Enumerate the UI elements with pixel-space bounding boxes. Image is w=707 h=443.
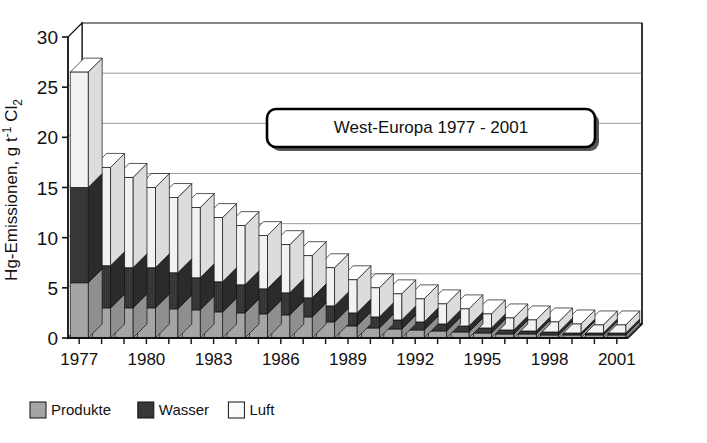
bar-segment-side — [111, 153, 125, 265]
legend-swatch-luft[interactable] — [228, 402, 244, 418]
x-tick-label: 1977 — [60, 350, 98, 369]
y-tick-label: 10 — [37, 228, 58, 249]
y-axis-title-subscript: 2 — [11, 99, 25, 106]
title-callout: West-Europa 1977 - 2001 — [267, 109, 599, 151]
x-tick-label: 1998 — [531, 350, 569, 369]
bar-segment-front — [70, 283, 88, 338]
y-axis-title-mid: Cl — [2, 106, 21, 127]
legend-label-luft: Luft — [249, 401, 275, 418]
x-tick-label: 1980 — [127, 350, 165, 369]
x-tick-label: 1986 — [262, 350, 300, 369]
bar-segment-front — [451, 332, 469, 338]
bar-segment-front — [541, 332, 559, 335]
legend-swatch-wasser[interactable] — [138, 402, 154, 418]
y-tick-label: 15 — [37, 178, 58, 199]
x-tick-label: 2001 — [598, 350, 636, 369]
bar-segment-side — [133, 163, 147, 267]
y-tick-label: 0 — [47, 328, 58, 349]
legend-label-wasser: Wasser — [159, 401, 209, 418]
bar-segment-side — [178, 184, 192, 273]
legend-label-produkte: Produkte — [51, 401, 111, 418]
bar-segment-front — [70, 188, 88, 283]
x-tick-label: 1992 — [396, 350, 434, 369]
chart-container: Hg-Emissionen, g t-1 Cl2 051015202530 19… — [0, 0, 707, 443]
x-tick-label: 1983 — [195, 350, 233, 369]
bar-segment-front — [518, 331, 536, 334]
bar-group — [70, 58, 102, 338]
y-tick-label: 25 — [37, 77, 58, 98]
bar-segment-side — [88, 174, 102, 283]
legend-swatch-produkte[interactable] — [30, 402, 46, 418]
y-axis-title-prefix: Hg-Emissionen, g t — [2, 137, 21, 281]
bar-segment-side — [155, 174, 169, 268]
title-label: West-Europa 1977 - 2001 — [334, 118, 528, 137]
bar-segment-front — [429, 331, 447, 338]
y-tick-label: 5 — [47, 278, 58, 299]
bar-segment-side — [200, 194, 214, 278]
bar-segment-front — [70, 72, 88, 187]
x-tick-label: 1989 — [329, 350, 367, 369]
y-tick-label: 30 — [37, 27, 58, 48]
plot-area-3d — [68, 23, 642, 338]
x-tick-label: 1995 — [463, 350, 501, 369]
bar-segment-side — [88, 58, 102, 187]
x-axis-ticks: 197719801983198619891992199519982001 — [60, 338, 635, 369]
emissions-stacked-bar-chart: Hg-Emissionen, g t-1 Cl2 051015202530 19… — [0, 0, 707, 443]
chart-legend: ProdukteWasserLuft — [30, 401, 275, 418]
y-tick-label: 20 — [37, 127, 58, 148]
y-axis-title-superscript: -1 — [0, 126, 14, 137]
